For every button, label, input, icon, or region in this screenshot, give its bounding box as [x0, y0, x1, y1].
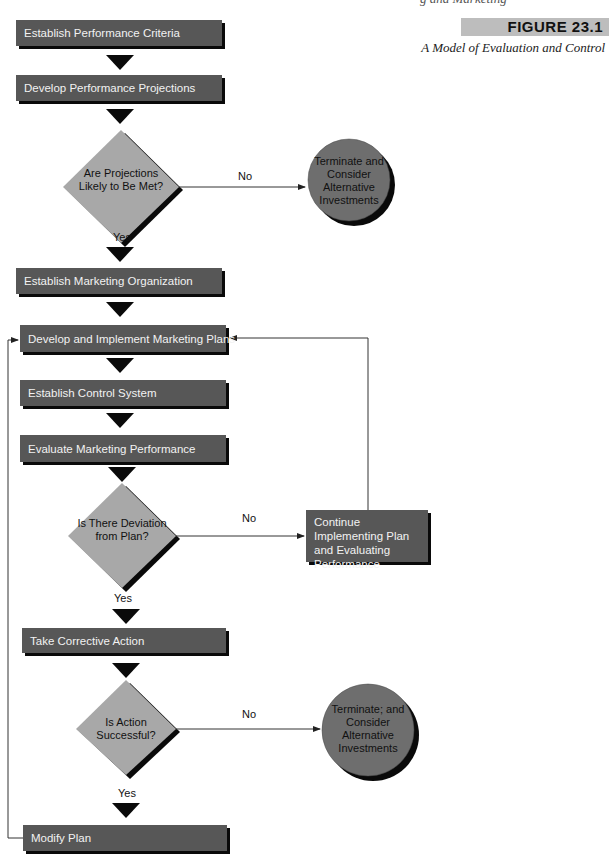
box-develop-performance-projections: Develop Performance Projections — [16, 75, 222, 101]
edge-label-no: No — [242, 708, 256, 720]
edge-label-yes: Yes — [118, 787, 136, 799]
edge-label-yes: Yes — [113, 231, 131, 243]
box-establish-control-system: Establish Control System — [20, 380, 226, 406]
edge-label-yes: Yes — [114, 592, 132, 604]
terminal-text-2: Terminate; and Consider Alternative Inve… — [326, 703, 410, 755]
box-continue-implementing: Continue Implementing Plan and Evaluatin… — [306, 510, 428, 562]
box-evaluate-marketing-performance: Evaluate Marketing Performance — [20, 435, 226, 462]
edge-label-no: No — [238, 170, 252, 182]
decision-text-projections: Are Projections Likely to Be Met? — [70, 167, 172, 193]
box-establish-marketing-organization: Establish Marketing Organization — [16, 268, 222, 294]
edge-label-no: No — [242, 512, 256, 524]
decision-text-action: Is Action Successful? — [86, 716, 166, 742]
decision-text-deviation: Is There Deviation from Plan? — [76, 517, 168, 543]
box-develop-implement-marketing-plans: Develop and Implement Marketing Plans — [20, 325, 226, 352]
box-establish-performance-criteria: Establish Performance Criteria — [16, 20, 222, 46]
terminal-text-1: Terminate and Consider Alternative Inves… — [312, 155, 386, 207]
box-take-corrective-action: Take Corrective Action — [22, 628, 226, 653]
box-modify-plan: Modify Plan — [23, 825, 227, 851]
